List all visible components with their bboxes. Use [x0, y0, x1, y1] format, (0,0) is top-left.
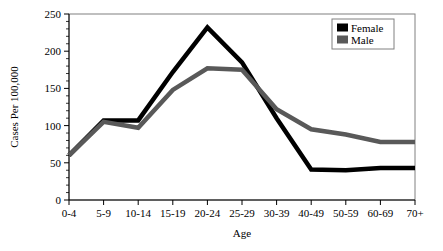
- x-axis-tick-labels: 0-45-910-1415-1920-2425-2930-3940-4950-5…: [62, 207, 424, 219]
- x-tick-label: 5-9: [96, 207, 111, 219]
- legend-swatch-male: [337, 36, 348, 44]
- y-axis-title: Cases Per 100,000: [8, 66, 20, 148]
- y-tick-label: 0: [56, 194, 62, 206]
- y-tick-label: 200: [45, 45, 62, 57]
- x-tick-label: 60-69: [368, 207, 394, 219]
- x-tick-label: 30-39: [264, 207, 290, 219]
- legend-swatch-female: [337, 24, 348, 32]
- x-tick-label: 70+: [406, 207, 423, 219]
- line-chart: 050100150200250 0-45-910-1415-1920-2425-…: [0, 0, 443, 251]
- x-axis-ticks: [69, 200, 415, 205]
- legend-label-male: Male: [351, 34, 374, 46]
- y-tick-label: 50: [50, 157, 62, 169]
- x-tick-label: 40-49: [298, 207, 324, 219]
- x-tick-label: 25-29: [229, 207, 255, 219]
- x-tick-label: 0-4: [62, 207, 77, 219]
- y-axis-ticks: [64, 14, 69, 200]
- legend-label-female: Female: [351, 22, 383, 34]
- y-tick-label: 150: [45, 82, 62, 94]
- chart-legend: Female Male: [332, 19, 394, 49]
- x-tick-label: 20-24: [195, 207, 221, 219]
- y-axis-tick-labels: 050100150200250: [45, 8, 62, 206]
- x-tick-label: 15-19: [160, 207, 186, 219]
- y-tick-label: 250: [45, 8, 62, 20]
- chart-container: 050100150200250 0-45-910-1415-1920-2425-…: [0, 0, 443, 251]
- x-axis-title: Age: [233, 227, 251, 239]
- y-tick-label: 100: [45, 120, 62, 132]
- x-tick-label: 10-14: [125, 207, 151, 219]
- x-tick-label: 50-59: [333, 207, 359, 219]
